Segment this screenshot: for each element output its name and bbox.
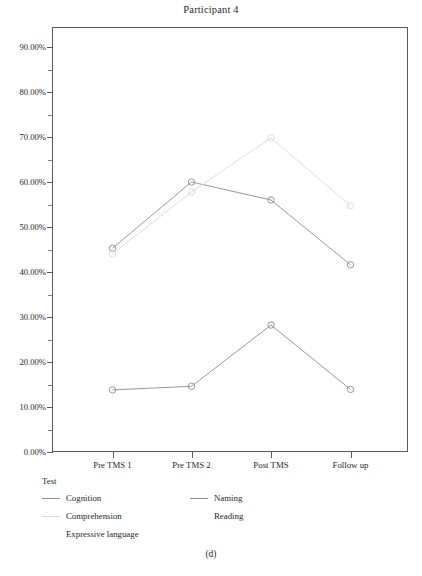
legend-color-swatch [42, 534, 60, 535]
series-line [113, 325, 351, 390]
legend-color-swatch [42, 498, 60, 499]
y-axis-tick-mark [47, 272, 53, 273]
legend-item-reading[interactable]: Reading [190, 512, 243, 521]
y-axis-tick-mark [47, 227, 53, 228]
y-axis-tick-mark [47, 317, 53, 318]
figure-sub-caption: (d) [0, 549, 422, 559]
legend-item-label: Cognition [66, 494, 101, 503]
y-axis-minor-tick [48, 340, 53, 341]
y-axis-tick-label: 80.00% [2, 87, 46, 97]
x-axis-tick-label: Post TMS [253, 460, 288, 470]
y-axis-minor-tick [48, 115, 53, 116]
y-axis-tick-label: 20.00% [2, 357, 46, 367]
figure-panel: Participant 4 90.00%80.00%70.00%60.00%50… [0, 0, 422, 576]
legend-item-expressive-language[interactable]: Expressive language [42, 530, 139, 539]
y-axis-tick-label: 60.00% [2, 177, 46, 187]
legend-item-label: Reading [214, 512, 243, 521]
y-axis-tick-label: 90.00% [2, 42, 46, 52]
y-axis-tick-label: 50.00% [2, 222, 46, 232]
y-axis-tick-label: 10.00% [2, 402, 46, 412]
x-axis-tick-mark [192, 452, 193, 458]
x-axis-tick-label: Pre TMS 2 [172, 460, 210, 470]
y-axis-tick-mark [47, 362, 53, 363]
legend-color-swatch [190, 516, 208, 517]
legend-item-label: Expressive language [66, 530, 139, 539]
y-axis-minor-tick [48, 205, 53, 206]
y-axis-tick-label: 70.00% [2, 132, 46, 142]
y-axis: 90.00%80.00%70.00%60.00%50.00%40.00%30.0… [0, 0, 46, 576]
legend-title: Test [42, 476, 372, 486]
y-axis-tick-mark [47, 452, 53, 453]
y-axis-minor-tick [48, 160, 53, 161]
series-naming [109, 322, 353, 393]
y-axis-minor-tick [48, 295, 53, 296]
y-axis-tick-label: 40.00% [2, 267, 46, 277]
x-axis-tick-mark [271, 452, 272, 458]
y-axis-tick-label: 0.00% [2, 447, 46, 457]
legend-item-label: Naming [214, 494, 242, 503]
legend-item-label: Comprehension [66, 512, 122, 521]
y-axis-minor-tick [48, 385, 53, 386]
page-title: Participant 4 [0, 4, 422, 15]
series-line [113, 182, 351, 265]
y-axis-tick-mark [47, 407, 53, 408]
series-comprehension [109, 135, 353, 258]
y-axis-tick-mark [47, 47, 53, 48]
y-axis-tick-mark [47, 182, 53, 183]
x-axis-tick-label: Pre TMS 1 [93, 460, 131, 470]
series-line [113, 138, 351, 254]
y-axis-tick-mark [47, 137, 53, 138]
x-axis-tick-mark [113, 452, 114, 458]
y-axis-minor-tick [48, 250, 53, 251]
legend-item-cognition[interactable]: Cognition [42, 494, 101, 503]
y-axis-tick-label: 30.00% [2, 312, 46, 322]
chart-series-layer [52, 27, 408, 452]
legend: Test CognitionComprehensionExpressive la… [42, 476, 372, 546]
y-axis-minor-tick [48, 70, 53, 71]
x-axis-tick-mark [351, 452, 352, 458]
legend-color-swatch [42, 516, 60, 517]
series-cognition [109, 179, 353, 268]
x-axis-tick-label: Follow up [333, 460, 369, 470]
legend-color-swatch [190, 498, 208, 499]
legend-item-comprehension[interactable]: Comprehension [42, 512, 122, 521]
legend-item-naming[interactable]: Naming [190, 494, 242, 503]
y-axis-minor-tick [48, 430, 53, 431]
y-axis-tick-mark [47, 92, 53, 93]
legend-entries: CognitionComprehensionExpressive languag… [42, 494, 372, 546]
